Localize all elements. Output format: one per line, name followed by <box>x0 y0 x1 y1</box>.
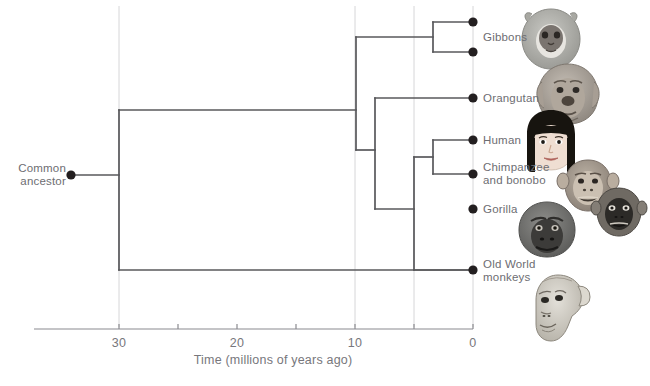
old-world-monkey-icon <box>536 275 590 341</box>
tip-node-gibbon-b <box>468 47 477 56</box>
tip-node-gorilla <box>468 204 477 213</box>
tip-node-human <box>468 135 477 144</box>
tip-node-old-world-monkeys <box>468 265 477 274</box>
tick-label-0: 0 <box>458 336 488 350</box>
tick-label-30: 30 <box>104 336 134 350</box>
tip-label-gorilla: Gorilla <box>483 203 518 216</box>
tip-label-human: Human <box>483 134 521 147</box>
axis-gridlines <box>119 6 473 327</box>
common-ancestor-label: Common ancestor <box>6 162 66 188</box>
tip-label-orangutan: Orangutan <box>483 92 539 105</box>
tip-label-chimpanzee-bonobo: Chimpanzee and bonobo <box>483 161 550 187</box>
node-common-ancestor <box>66 170 75 179</box>
gorilla-face-icon <box>519 202 575 257</box>
tip-node-chimpanzee-bonobo <box>468 169 477 178</box>
tick-label-20: 20 <box>222 336 252 350</box>
tree-canvas <box>0 0 650 386</box>
phylogenetic-tree-figure: Common ancestor GibbonsOrangutanHumanChi… <box>0 0 650 386</box>
tick-label-10: 10 <box>340 336 370 350</box>
gibbon-face-icon <box>522 9 580 69</box>
tip-label-old-world-monkeys: Old World monkeys <box>483 258 536 284</box>
axis-title: Time (millions of years ago) <box>153 353 393 367</box>
tip-nodes <box>66 17 477 274</box>
tree-branches <box>71 22 473 270</box>
tip-node-orangutan <box>468 93 477 102</box>
tip-label-gibbon-b: Gibbons <box>483 31 527 44</box>
tip-node-gibbon-a <box>468 17 477 26</box>
time-axis <box>34 324 473 329</box>
